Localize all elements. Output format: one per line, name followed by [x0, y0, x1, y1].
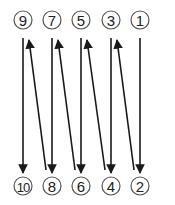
- node-4: 4: [102, 177, 120, 195]
- svg-text:7: 7: [48, 12, 56, 29]
- arrow-8-to-9: [29, 40, 46, 170]
- svg-text:2: 2: [136, 178, 144, 195]
- svg-text:10: 10: [17, 180, 30, 195]
- svg-text:4: 4: [107, 178, 115, 195]
- arrow-6-to-7: [58, 40, 75, 170]
- down-arrows: [23, 38, 140, 173]
- svg-text:8: 8: [48, 178, 56, 195]
- svg-text:5: 5: [77, 12, 85, 29]
- node-8: 8: [43, 177, 61, 195]
- node-9: 9: [14, 11, 32, 29]
- svg-text:3: 3: [107, 12, 115, 29]
- node-5: 5: [72, 11, 90, 29]
- node-6: 6: [72, 177, 90, 195]
- svg-text:9: 9: [19, 12, 27, 29]
- arrow-4-to-5: [87, 40, 105, 170]
- node-10: 10: [14, 177, 32, 195]
- zigzag-order-diagram: 9 7 5 3 1 10 8 6 4 2: [0, 0, 175, 205]
- node-3: 3: [102, 11, 120, 29]
- node-2: 2: [131, 177, 149, 195]
- svg-text:6: 6: [77, 178, 85, 195]
- svg-text:1: 1: [136, 12, 144, 29]
- arrow-2-to-3: [117, 40, 134, 170]
- node-1: 1: [131, 11, 149, 29]
- node-7: 7: [43, 11, 61, 29]
